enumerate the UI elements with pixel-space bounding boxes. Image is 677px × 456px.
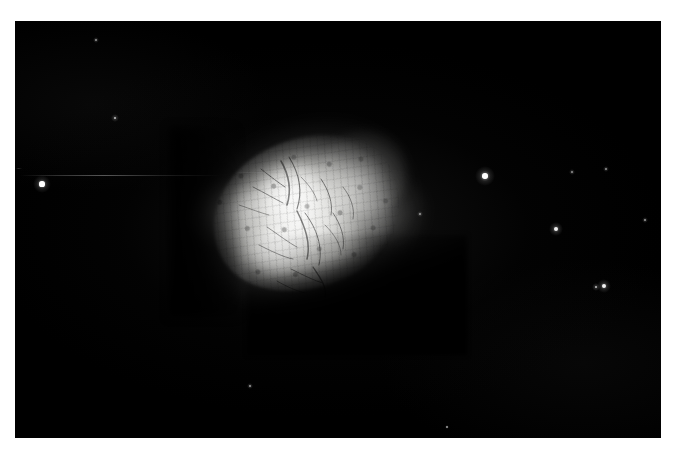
star-field-nebula-edge-vfaint: [419, 213, 421, 215]
nebula-halo-layer: [168, 84, 450, 348]
star-field-northwest-faint-glow: [111, 114, 119, 122]
nebula-container: [15, 21, 661, 438]
star-field-lower-mid-vfaint: [249, 385, 251, 387]
star-field-east-mid: [554, 227, 558, 231]
plate-edge-nick: [16, 168, 22, 169]
nebula-mottled-texture: [187, 103, 428, 327]
star-field-southeast-b-glow: [592, 283, 600, 291]
photographic-print: [0, 0, 677, 456]
star-field-upper-right-vfaint-glow: [569, 169, 575, 175]
nebula-northeast-lobe: [306, 115, 422, 231]
star-field-southeast-a: [602, 284, 606, 288]
star-field-northwest-faint: [114, 117, 117, 120]
nebula-west-dark-cut: [169, 127, 239, 317]
nebula-core-layer: [188, 105, 425, 323]
star-field-right-edge-vfaint-glow: [642, 217, 648, 223]
star-field-west-bright-glow: [33, 175, 51, 193]
nebula-west-wisp: [180, 174, 268, 254]
star-field-southeast-b: [595, 286, 597, 288]
star-field-east-mid-glow: [549, 222, 563, 236]
emulsion-scratch-short: [235, 172, 295, 173]
star-field-upper-right-vfaint: [571, 171, 573, 173]
nebula-southwest-knot: [238, 210, 322, 284]
star-field-northeast-bright-glow: [475, 166, 495, 186]
star-field-southeast-a-glow: [597, 279, 611, 293]
star-field-lower-right-vfaint-glow: [445, 425, 449, 429]
nebula: [193, 117, 433, 317]
star-field-west-bright: [39, 181, 44, 186]
star-field-upper-left-vfaint-glow: [93, 37, 99, 43]
star-field-right-vfaint: [605, 168, 607, 170]
nebula-dark-filaments: [193, 117, 433, 317]
sky-field: [15, 21, 661, 438]
nebula-east-wisp: [352, 169, 436, 256]
star-field-lower-mid-vfaint-glow: [247, 383, 253, 389]
nebula-northwest-knot: [242, 152, 335, 236]
nebula-southeast-dark-cut: [247, 235, 467, 355]
star-field-right-vfaint-glow: [603, 166, 609, 172]
star-field-lower-right-vfaint: [446, 426, 447, 427]
star-field-right-edge-vfaint: [644, 219, 646, 221]
star-field-nebula-edge-vfaint-glow: [417, 211, 423, 217]
star-field-upper-left-vfaint: [95, 39, 97, 41]
star-field-northeast-bright: [482, 173, 487, 178]
emulsion-scratch-horizontal: [20, 175, 220, 176]
plate-fog-overlay: [15, 21, 661, 438]
